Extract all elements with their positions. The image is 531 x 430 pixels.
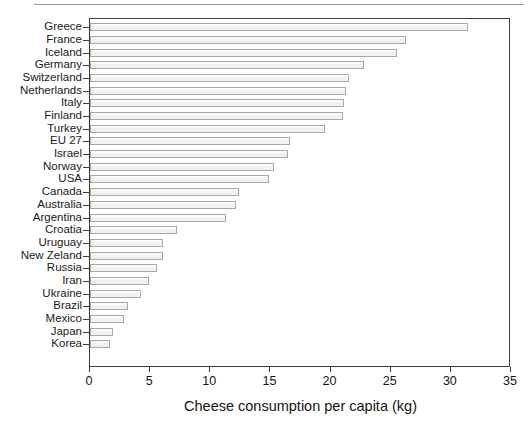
bar-highlight	[91, 176, 268, 178]
category-label: Brazil	[53, 299, 82, 311]
category-label: Ukraine	[42, 287, 82, 299]
category-label: Croatia	[45, 223, 82, 235]
bar	[90, 239, 163, 247]
bar	[90, 163, 274, 171]
bar-highlight	[91, 62, 363, 64]
bar-highlight	[91, 37, 405, 39]
bar-highlight	[91, 88, 345, 90]
bar	[90, 188, 239, 196]
category-axis-labels: GreeceFranceIcelandGermanySwitzerlandNet…	[0, 18, 82, 367]
bar	[90, 252, 163, 260]
bar-highlight	[91, 278, 148, 280]
bar-highlight	[91, 189, 238, 191]
category-label: Uruguay	[39, 236, 82, 248]
bar-highlight	[91, 341, 109, 343]
y-axis-tick	[83, 281, 89, 282]
category-label: Australia	[37, 198, 82, 210]
bar	[90, 61, 364, 69]
y-axis-tick	[83, 205, 89, 206]
x-axis-tick-label: 25	[370, 374, 410, 389]
bar	[90, 264, 157, 272]
y-axis-tick	[83, 129, 89, 130]
bar-highlight	[91, 291, 140, 293]
y-axis-tick	[83, 78, 89, 79]
x-axis-tick	[269, 367, 270, 372]
bar	[90, 125, 325, 133]
category-label: Russia	[47, 261, 82, 273]
bar-highlight	[91, 24, 467, 26]
category-label: Finland	[44, 109, 82, 121]
bar	[90, 277, 149, 285]
bar-highlight	[91, 113, 342, 115]
top-rule-divider	[34, 4, 524, 5]
y-axis-tick	[83, 306, 89, 307]
category-label: Israel	[54, 147, 82, 159]
y-axis-tick	[83, 268, 89, 269]
category-label: Argentina	[33, 211, 82, 223]
bar	[90, 36, 406, 44]
category-label: Mexico	[46, 312, 82, 324]
x-axis-title: Cheese consumption per capita (kg)	[0, 398, 531, 414]
category-label: USA	[58, 172, 82, 184]
bar-highlight	[91, 50, 396, 52]
bar-highlight	[91, 215, 225, 217]
category-label: Canada	[42, 185, 82, 197]
category-label: Italy	[61, 96, 82, 108]
y-axis-tick	[83, 218, 89, 219]
bar-highlight	[91, 138, 289, 140]
x-axis-tick-label: 10	[189, 374, 229, 389]
x-axis-tick	[89, 367, 90, 372]
category-label: Germany	[35, 58, 82, 70]
bar	[90, 340, 110, 348]
plot-area	[89, 18, 510, 367]
x-axis-tick-label: 30	[430, 374, 470, 389]
bar	[90, 87, 346, 95]
x-axis-tick-label: 35	[490, 374, 530, 389]
y-axis-tick	[83, 230, 89, 231]
y-axis-tick	[83, 65, 89, 66]
bar	[90, 23, 468, 31]
x-axis-tick-label: 0	[69, 374, 109, 389]
bar-highlight	[91, 126, 324, 128]
bar	[90, 201, 236, 209]
y-axis-tick	[83, 179, 89, 180]
y-axis-tick	[83, 27, 89, 28]
bar-highlight	[91, 75, 348, 77]
bar	[90, 315, 124, 323]
bar	[90, 226, 177, 234]
cheese-consumption-bar-chart: GreeceFranceIcelandGermanySwitzerlandNet…	[0, 0, 531, 430]
category-label: EU 27	[50, 134, 82, 146]
plot-frame-right	[509, 18, 510, 367]
plot-frame-bottom	[89, 366, 510, 367]
bar-highlight	[91, 100, 343, 102]
x-axis-tick	[330, 367, 331, 372]
category-label: Greece	[44, 20, 82, 32]
category-label: New Zeland	[21, 249, 82, 261]
bar	[90, 74, 349, 82]
x-axis-title-text: Cheese consumption per capita (kg)	[114, 398, 417, 414]
category-label: Turkey	[47, 122, 82, 134]
bar	[90, 150, 288, 158]
bar	[90, 214, 226, 222]
bar	[90, 137, 290, 145]
category-label: France	[46, 33, 82, 45]
category-label: Iceland	[45, 46, 82, 58]
y-axis-tick	[83, 294, 89, 295]
y-axis-tick	[83, 167, 89, 168]
y-axis-tick	[83, 116, 89, 117]
y-axis-tick	[83, 40, 89, 41]
bar-highlight	[91, 329, 112, 331]
y-axis-tick	[83, 141, 89, 142]
y-axis-tick	[83, 91, 89, 92]
bar-highlight	[91, 303, 127, 305]
x-axis-tick	[450, 367, 451, 372]
bar	[90, 112, 343, 120]
y-axis-tick	[83, 243, 89, 244]
bar	[90, 302, 128, 310]
y-axis-tick	[83, 344, 89, 345]
x-axis-tick	[390, 367, 391, 372]
y-axis-tick	[83, 332, 89, 333]
x-axis-tick	[149, 367, 150, 372]
bar	[90, 49, 397, 57]
category-label: Netherlands	[20, 84, 82, 96]
